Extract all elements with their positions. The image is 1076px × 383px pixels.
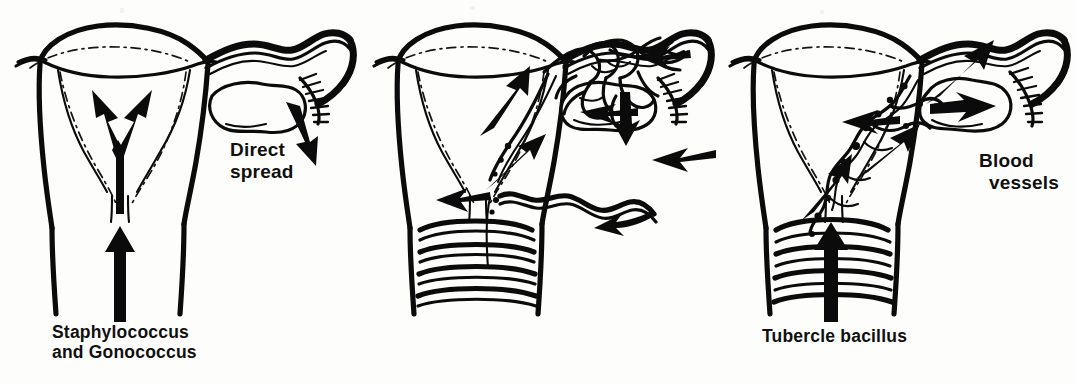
lymphatic-chain [810,76,944,232]
uterus-outline [374,25,574,314]
endometrial-cavity-dashed [388,47,548,206]
caption-line-1: Staphylococcus [52,322,189,342]
lymph-nodes [809,82,939,237]
plexus-into-uterus-arrow [486,134,546,190]
fundus-right-branch-arrow [118,90,152,156]
caption-line-2: and Gonococcus [52,342,197,362]
panel-lymphatic-vessels: Streptococcus Lymphaticvessels [714,0,1074,383]
artery-into-uterus-arrow [436,188,491,212]
annotation-line-2: spread [230,161,294,183]
panel-blood-illustration [358,0,718,383]
panel-blood-vessels: Tubercle bacillus Bloodvessels [358,0,718,383]
endometrial-cavity-dashed [744,47,904,206]
scan-artifact [470,6,475,10]
fundus-left-branch-arrow [92,90,122,156]
vaginal-rugae [418,221,536,306]
fimbriae [1010,68,1042,126]
figure-routes-of-spread: Staphylococcusand Gonococcus Directsprea… [0,0,1076,383]
caption-direct-spread: Staphylococcusand Gonococcus [52,322,197,363]
scan-artifact [820,10,824,14]
scan-artifact [120,8,124,13]
incoming-vessel-arrow [652,148,716,172]
annotation-direct-spread: Directspread [230,139,294,183]
panel-direct-spread: Staphylococcusand Gonococcus Directsprea… [0,0,360,383]
panel-lymph-illustration [714,0,1074,383]
fimbriae [658,74,687,124]
annotation-line-1: Direct [230,139,285,160]
vaginal-ascending-arrow [105,226,135,322]
